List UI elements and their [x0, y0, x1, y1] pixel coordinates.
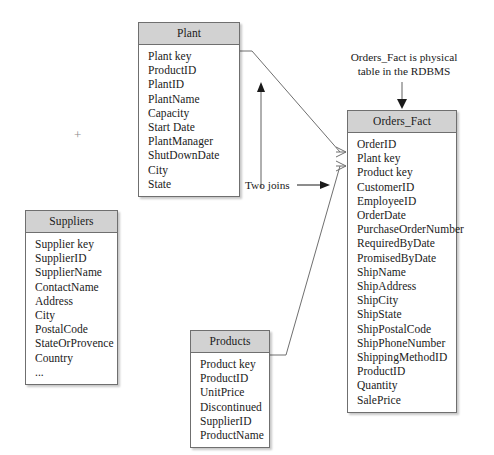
entity-products-fields: Product key ProductID UnitPrice Disconti…: [191, 353, 269, 447]
field-row: ShipAddress: [357, 279, 456, 293]
field-row: ShutDownDate: [148, 148, 239, 162]
field-row: RequiredByDate: [357, 236, 456, 250]
join-line-plant-to-ordersfact: [240, 51, 340, 152]
field-row: ShipState: [357, 307, 456, 321]
entity-suppliers[interactable]: Suppliers Supplier key SupplierID Suppli…: [25, 210, 118, 385]
entity-plant-fields: Plant key ProductID PlantID PlantName Ca…: [139, 45, 239, 196]
field-row: SupplierName: [35, 265, 117, 279]
field-row: ...: [35, 365, 117, 379]
field-row: PurchaseOrderNumber: [357, 222, 456, 236]
field-row: Plant key: [357, 151, 456, 165]
field-row: ShippingMethodID: [357, 350, 456, 364]
field-row: Product key: [357, 165, 456, 179]
field-row: Quantity: [357, 378, 456, 392]
field-row: PlantID: [148, 77, 239, 91]
field-row: ShipPostalCode: [357, 322, 456, 336]
field-row: City: [35, 308, 117, 322]
entity-orders-fact[interactable]: Orders_Fact OrderID Plant key Product ke…: [347, 110, 457, 413]
field-row: OrderID: [357, 137, 456, 151]
entity-plant[interactable]: Plant Plant key ProductID PlantID PlantN…: [138, 22, 240, 197]
crowsfoot-product-key-icon: [336, 161, 346, 171]
two-joins-pointer-arrowhead-icon: [257, 82, 265, 92]
entity-orders-fact-fields: OrderID Plant key Product key CustomerID…: [348, 133, 456, 412]
field-row: Address: [35, 294, 117, 308]
entity-suppliers-title: Suppliers: [26, 211, 117, 233]
field-row: ShipCity: [357, 293, 456, 307]
entity-suppliers-fields: Supplier key SupplierID SupplierName Con…: [26, 233, 117, 384]
field-row: City: [148, 163, 239, 177]
field-row: EmployeeID: [357, 194, 456, 208]
rdbms-note-arrowhead-icon: [397, 99, 407, 109]
annotation-rdbms-note: Orders_Fact is physical table in the RDB…: [330, 50, 478, 78]
field-row: ProductID: [148, 63, 239, 77]
two-joins-horizontal-arrowhead-icon: [320, 181, 330, 189]
field-row: State: [148, 177, 239, 191]
entity-plant-title: Plant: [139, 23, 239, 45]
field-row: SupplierID: [200, 414, 269, 428]
field-row: Start Date: [148, 120, 239, 134]
field-row: Product key: [200, 357, 269, 371]
field-row: ContactName: [35, 280, 117, 294]
field-row: Country: [35, 351, 117, 365]
plus-mark: +: [74, 127, 81, 143]
field-row: SupplierID: [35, 251, 117, 265]
crowsfoot-plant-key-icon: [336, 147, 346, 157]
field-row: CustomerID: [357, 180, 456, 194]
annotation-rdbms-note-line1: Orders_Fact is physical: [330, 50, 478, 64]
entity-products[interactable]: Products Product key ProductID UnitPrice…: [190, 330, 270, 448]
field-row: PostalCode: [35, 322, 117, 336]
field-row: ProductID: [357, 364, 456, 378]
field-row: StateOrProvence: [35, 336, 117, 350]
field-row: ProductID: [200, 371, 269, 385]
field-row: SalePrice: [357, 393, 456, 407]
field-row: Capacity: [148, 106, 239, 120]
field-row: Discontinued: [200, 400, 269, 414]
field-row: PlantManager: [148, 134, 239, 148]
field-row: UnitPrice: [200, 385, 269, 399]
join-line-products-to-ordersfact: [270, 166, 340, 355]
entity-orders-fact-title: Orders_Fact: [348, 111, 456, 133]
field-row: OrderDate: [357, 208, 456, 222]
entity-products-title: Products: [191, 331, 269, 353]
field-row: Plant key: [148, 49, 239, 63]
field-row: ProductName: [200, 428, 269, 442]
er-diagram-canvas: Plant Plant key ProductID PlantID PlantN…: [0, 0, 494, 455]
annotation-two-joins-label: Two joins: [245, 178, 290, 192]
field-row: Supplier key: [35, 237, 117, 251]
field-row: ShipPhoneNumber: [357, 336, 456, 350]
field-row: PromisedByDate: [357, 251, 456, 265]
field-row: ShipName: [357, 265, 456, 279]
field-row: PlantName: [148, 92, 239, 106]
annotation-rdbms-note-line2: table in the RDBMS: [330, 64, 478, 78]
